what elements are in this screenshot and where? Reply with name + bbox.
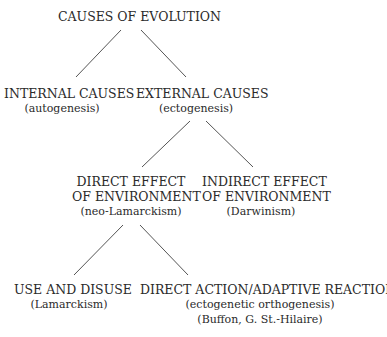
node-title-line1: DIRECT EFFECT <box>72 174 190 189</box>
node-title: CAUSES OF EVOLUTION <box>58 9 208 24</box>
node-direct-effect: DIRECT EFFECT OF ENVIRONMENT (neo-Lamarc… <box>72 174 190 219</box>
edge-root-internal <box>76 30 121 77</box>
edge-external-direct <box>142 121 190 167</box>
node-title: INTERNAL CAUSES <box>4 86 120 101</box>
node-direct-action: DIRECT ACTION/ADAPTIVE REACTION (ectogen… <box>140 282 380 327</box>
node-internal-causes: INTERNAL CAUSES (autogenesis) <box>4 86 120 116</box>
edge-external-indirect <box>206 121 253 167</box>
edge-direct-usedisuse <box>74 225 123 275</box>
node-subtitle-2: (Buffon, G. St.-Hilaire) <box>140 312 380 327</box>
node-title: DIRECT ACTION/ADAPTIVE REACTION <box>140 282 380 297</box>
node-title-line2: OF ENVIRONMENT <box>202 189 320 204</box>
edge-root-external <box>141 30 186 77</box>
edge-direct-directaction <box>140 225 188 275</box>
node-subtitle: (Lamarckism) <box>14 297 124 312</box>
node-title-line1: INDIRECT EFFECT <box>202 174 320 189</box>
node-indirect-effect: INDIRECT EFFECT OF ENVIRONMENT (Darwinis… <box>202 174 320 219</box>
node-subtitle-1: (ectogenetic orthogenesis) <box>140 297 380 312</box>
node-subtitle: (autogenesis) <box>4 101 120 116</box>
node-title: USE AND DISUSE <box>14 282 124 297</box>
node-subtitle: (ectogenesis) <box>136 101 256 116</box>
node-subtitle: (neo-Lamarckism) <box>72 204 190 219</box>
node-subtitle: (Darwinism) <box>202 204 320 219</box>
node-external-causes: EXTERNAL CAUSES (ectogenesis) <box>136 86 256 116</box>
node-title-line2: OF ENVIRONMENT <box>72 189 190 204</box>
node-causes-of-evolution: CAUSES OF EVOLUTION <box>58 9 208 24</box>
node-title: EXTERNAL CAUSES <box>136 86 256 101</box>
node-use-and-disuse: USE AND DISUSE (Lamarckism) <box>14 282 124 312</box>
